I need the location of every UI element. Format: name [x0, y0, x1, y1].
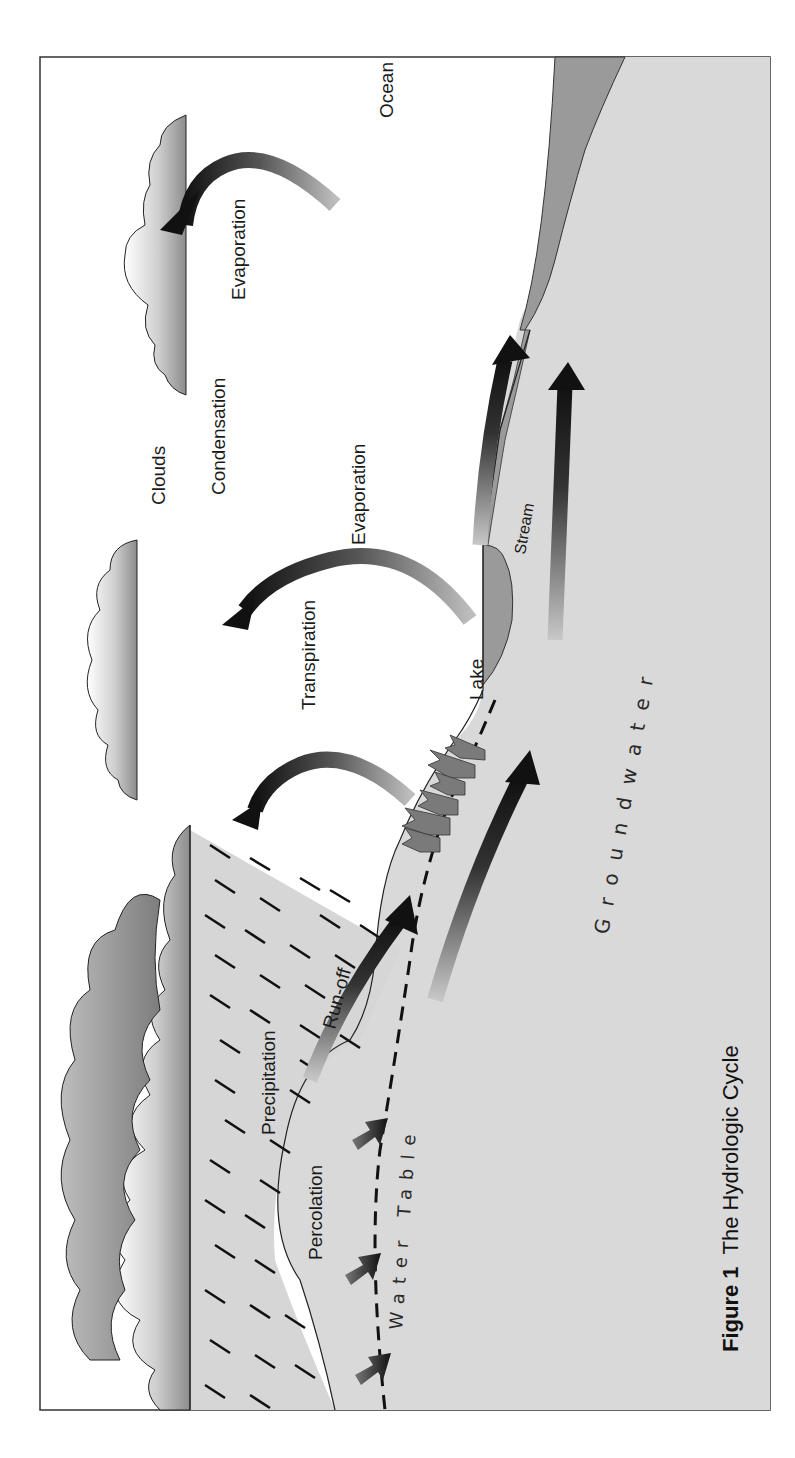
label-percolation: Percolation	[305, 1165, 326, 1260]
figure-caption: Figure 1The Hydrologic Cycle	[718, 1045, 743, 1352]
hydrologic-cycle-diagram: Ocean Evaporation Condensation Clouds Ev…	[0, 0, 795, 1458]
label-ocean: Ocean	[376, 62, 397, 118]
figure-number: Figure 1	[718, 1266, 743, 1352]
label-transpiration: Transpiration	[298, 600, 319, 710]
label-evaporation-ocean: Evaporation	[228, 199, 249, 300]
groundwater-ocean-arrow	[555, 385, 565, 640]
label-precipitation: Precipitation	[258, 1030, 279, 1135]
figure-title: The Hydrologic Cycle	[718, 1045, 743, 1254]
label-condensation: Condensation	[208, 378, 229, 495]
label-clouds: Clouds	[148, 446, 169, 505]
label-evaporation-lake: Evaporation	[348, 444, 369, 545]
label-lake: Lake	[466, 659, 487, 700]
